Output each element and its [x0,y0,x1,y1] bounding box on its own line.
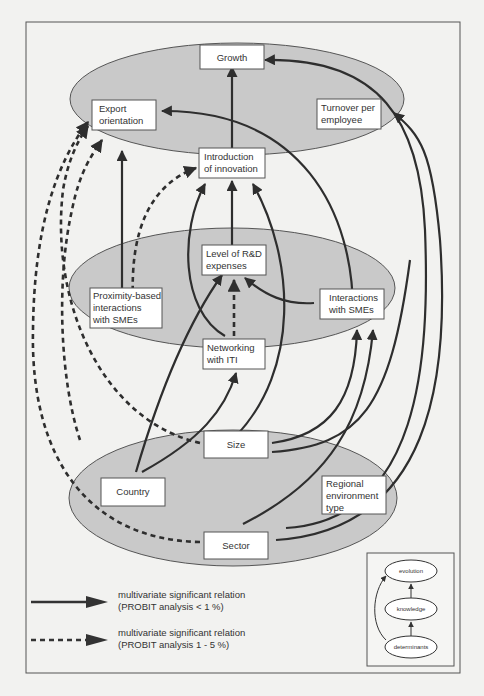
node-turnover-label-2: employee [321,114,362,125]
node-proximity-label-2: interactions [93,302,142,313]
node-sector-label: Sector [222,540,249,551]
legend-solid-label-1: multivariate significant relation [118,589,245,600]
node-regional-environment-type: Regional environment type [322,476,386,514]
node-export-label-2: orientation [99,115,143,126]
node-growth-label: Growth [217,52,248,63]
node-export-label-1: Export [99,103,127,114]
node-iti-label-2: with ITI [206,354,238,365]
node-size: Size [204,431,268,458]
legend-dashed-arrowhead-icon [86,634,108,646]
node-iti-label-1: Networking [207,342,255,353]
node-regional-label-2: environment [326,490,379,501]
legend-solid-arrowhead-icon [86,596,108,608]
node-turnover-per-employee: Turnover per employee [317,99,381,129]
node-regional-label-1: Regional [326,478,364,489]
node-innovation-label-2: of innovation [204,163,258,174]
node-growth: Growth [200,45,264,69]
diagram-stage: Growth Export orientation Turnover per e… [0,0,484,696]
node-introduction-of-innovation: Introduction of innovation [199,148,265,178]
node-proximity-based-interactions: Proximity-based interactions with SMEs [90,288,162,328]
node-size-label: Size [227,439,245,450]
node-level-of-rd-expenses: Level of R&D expenses [202,245,266,275]
node-country-label: Country [116,486,150,497]
mini-label-evolution: evolution [399,568,423,574]
arrow-size-sme-1 [272,330,357,443]
node-interactions-with-smes: Interactions with SMEs [320,289,384,319]
node-turnover-label-1: Turnover per [321,102,375,113]
node-networking-with-iti: Networking with ITI [203,339,265,369]
node-proximity-label-1: Proximity-based [93,290,161,301]
mini-label-knowledge: knowledge [397,606,426,612]
node-country: Country [101,478,165,506]
node-innovation-label-1: Introduction [204,151,254,162]
legend-dashed-label-2: (PROBIT analysis 1 - 5 %) [118,639,229,650]
legend-solid-label-2: (PROBIT analysis < 1 %) [118,601,224,612]
node-export-orientation: Export orientation [92,100,156,130]
legend-dashed-label-1: multivariate significant relation [118,627,245,638]
mini-map: evolution knowledge determinants [367,553,454,666]
legend: multivariate significant relation (PROBI… [31,589,245,650]
diagram-canvas: Growth Export orientation Turnover per e… [0,0,484,696]
node-sector: Sector [204,532,268,559]
node-rd-label-1: Level of R&D [206,248,262,259]
node-sme-label-2: with SMEs [328,304,374,315]
node-sme-label-1: Interactions [329,292,378,303]
mini-label-determinants: determinants [394,644,429,650]
node-proximity-label-3: with SMEs [92,314,138,325]
node-rd-label-2: expenses [206,260,247,271]
node-regional-label-3: type [326,502,344,513]
